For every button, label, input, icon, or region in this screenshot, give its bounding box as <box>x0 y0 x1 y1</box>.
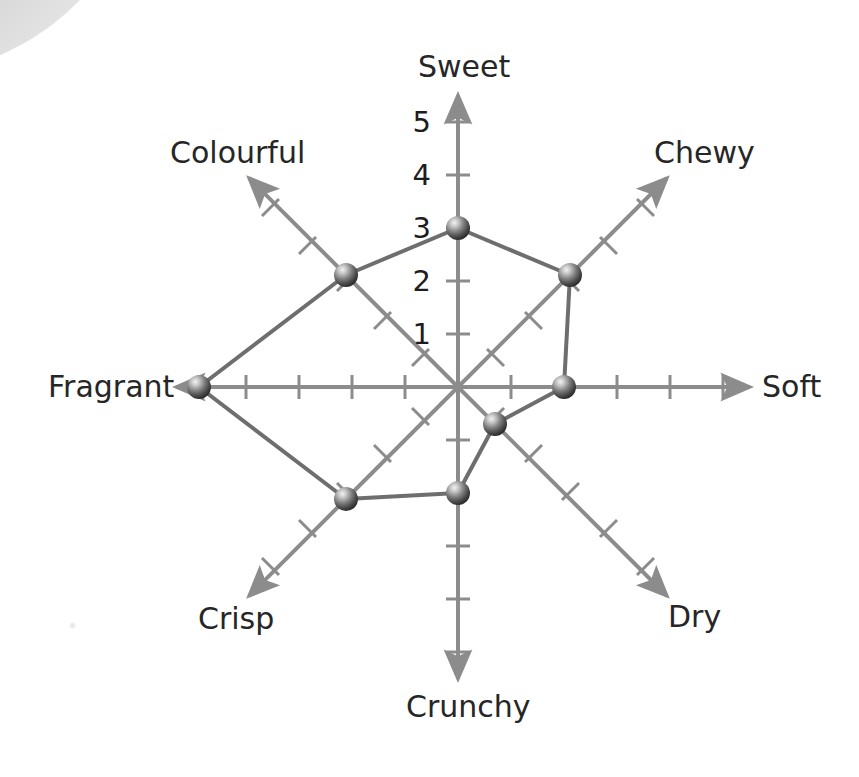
axis-label-fragrant: Fragrant <box>48 372 174 402</box>
data-point-crisp <box>334 487 358 511</box>
axis-label-soft: Soft <box>762 372 821 402</box>
radial-tick-label-1: 1 <box>409 320 431 349</box>
radar-chart-figure: 5 4 3 2 1 Sweet Chewy Soft Dry Crunchy C… <box>0 0 859 777</box>
data-point-fragrant <box>187 375 211 399</box>
radial-tick-label-2: 2 <box>409 267 431 296</box>
data-point-dry <box>483 412 507 436</box>
radial-tick-label-3: 3 <box>409 214 431 243</box>
axis-label-crunchy: Crunchy <box>406 692 531 722</box>
axis-label-colourful: Colourful <box>170 138 305 168</box>
axis-label-crisp: Crisp <box>198 604 274 634</box>
data-point-sweet <box>446 216 470 240</box>
radial-tick-label-5: 5 <box>409 108 431 137</box>
axis-label-dry: Dry <box>668 602 721 632</box>
data-point-crunchy <box>446 481 470 505</box>
data-point-colourful <box>334 263 358 287</box>
data-point-chewy <box>558 263 582 287</box>
axis-label-sweet: Sweet <box>418 52 510 82</box>
axis-lines <box>176 95 750 679</box>
radial-tick-label-4: 4 <box>409 161 431 190</box>
axis-label-chewy: Chewy <box>654 138 755 168</box>
data-point-soft <box>552 375 576 399</box>
